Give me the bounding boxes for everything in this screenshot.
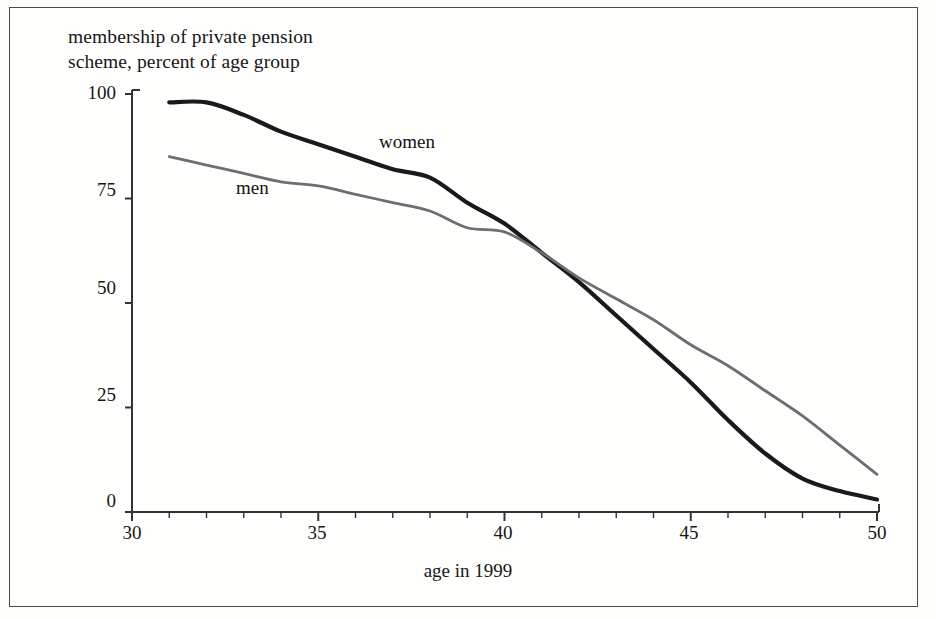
series-line-men xyxy=(169,157,877,475)
y-tick-label-0: 0 xyxy=(60,490,116,512)
y-tick-label-75: 75 xyxy=(60,179,116,201)
chart-figure: membership of private pensionscheme, per… xyxy=(0,0,936,619)
x-axis-ticks xyxy=(132,512,877,521)
x-tick-label-40: 40 xyxy=(473,522,533,544)
series-line-women xyxy=(169,101,877,499)
axes xyxy=(132,90,879,512)
y-tick-label-100: 100 xyxy=(60,82,116,104)
x-tick-label-50: 50 xyxy=(847,522,907,544)
y-tick-label-25: 25 xyxy=(60,384,116,406)
x-tick-label-45: 45 xyxy=(659,522,719,544)
y-axis-ticks xyxy=(125,94,132,512)
x-tick-label-30: 30 xyxy=(102,522,162,544)
data-series xyxy=(169,101,877,499)
series-label-men: men xyxy=(236,177,269,199)
y-tick-label-50: 50 xyxy=(60,277,116,299)
x-tick-label-35: 35 xyxy=(287,522,347,544)
x-axis-title: age in 1999 xyxy=(0,560,936,582)
series-label-women: women xyxy=(379,131,435,153)
